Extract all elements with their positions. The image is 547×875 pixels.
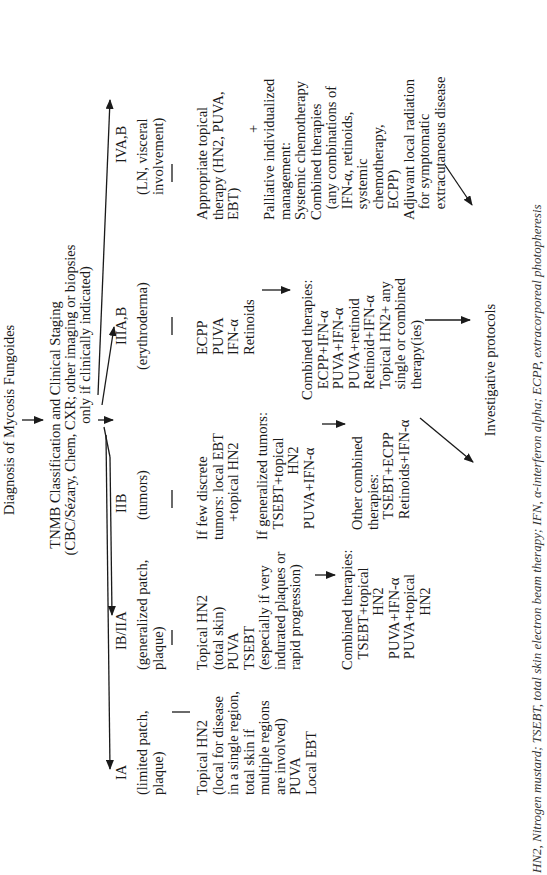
- investigative-protocols: Investigative protocols: [483, 270, 499, 470]
- stage-ia-therapy: Topical HN2 (local for disease in a sing…: [195, 691, 319, 795]
- stage-ia-description: (limited patch, plaque): [135, 710, 166, 795]
- treatment-flowchart: Diagnosis of Mycosis Fungoides TNMB Clas…: [0, 0, 547, 875]
- stage-ia-label: IA: [114, 765, 130, 780]
- stage-iiiab-combined: Combined therapies: ECPP+IFN-α PUVA+IFN-…: [300, 278, 424, 400]
- stage-ivab-plus: +: [246, 125, 262, 133]
- stage-iib-generalized-tumors: If generalized tumors: TSEBT+topical HN2…: [255, 412, 317, 540]
- staging-line-3: only if clinically indicated): [78, 235, 94, 455]
- stage-iib-description: (tumors): [135, 470, 151, 520]
- stage-iib-label: IIB: [114, 494, 130, 513]
- stage-ivab-description: (LN, visceral involvement): [135, 118, 166, 195]
- stage-ivab-label: IVA,B: [114, 126, 130, 163]
- stage-ivab-palliative: Palliative individualized management: Sy…: [262, 77, 448, 220]
- diagram-title: Diagnosis of Mycosis Fungoides: [2, 295, 18, 545]
- stage-iiiab-therapy: ECPP PUVA IFN-α Retinoids: [195, 299, 257, 355]
- stage-ib-iia-description: (generalized patch, plaque): [135, 560, 166, 670]
- stage-iiiab-label: IIIA,B: [114, 307, 130, 345]
- stage-ivab-topical: Appropriate topical therapy (HN2, PUVA, …: [195, 91, 242, 220]
- stage-ib-iia-combined: Combined therapies: TSEBT+topical HN2 PU…: [340, 550, 433, 670]
- stage-ib-iia-label: IB/IIA: [114, 611, 130, 650]
- stage-iib-other-combined: Other combined therapies: TSEBT+ECPP Ret…: [350, 420, 412, 530]
- footnote: HN2, Nitrogen mustard; TSEBT, total skin…: [530, 204, 544, 873]
- stage-ib-iia-therapy: Topical HN2 (total skin) PUVA TSEBT (esp…: [195, 552, 304, 670]
- stage-iiiab-description: (erythroderma): [135, 282, 151, 370]
- stage-iib-discrete-tumors: If few discrete tumors: local EBT +topic…: [195, 433, 242, 540]
